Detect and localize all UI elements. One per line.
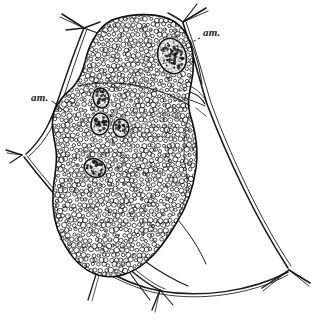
label-am-left: am.	[31, 92, 48, 103]
granular-body	[42, 7, 204, 284]
filament-top-right-junction	[168, 4, 208, 22]
filament-bottom-mid-junction	[152, 290, 173, 312]
filament-top-left-junction	[60, 14, 103, 35]
filament-right-strand	[183, 22, 291, 268]
filament-left-junction	[6, 150, 22, 163]
label-am-right: am.	[203, 27, 220, 38]
figure-container: am. am.	[0, 0, 315, 325]
illustration-svg	[0, 0, 315, 325]
